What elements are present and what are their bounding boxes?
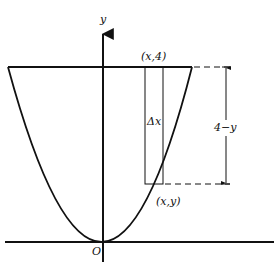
origin-label: O	[92, 245, 101, 258]
strip-width-label: Δx	[146, 115, 162, 128]
point-label-top: (x,4)	[141, 50, 166, 63]
parabola-curve	[8, 67, 192, 242]
dimension-label: 4−y	[213, 121, 237, 134]
y-axis-label: y	[99, 13, 107, 26]
point-label-curve: (x,y)	[156, 195, 181, 208]
parabola-strip-diagram: y (x,4) Δx 4−y (x,y) O	[0, 0, 274, 262]
